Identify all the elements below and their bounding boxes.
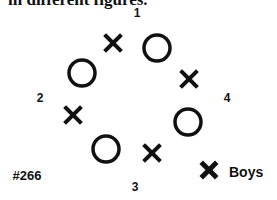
circle-player-icon	[93, 136, 119, 162]
circle-player-icon	[144, 35, 170, 61]
legend-x-icon	[203, 164, 215, 176]
x-player-icon	[182, 72, 196, 86]
position-label-4: 4	[224, 91, 231, 105]
x-player-icon	[106, 36, 120, 50]
position-label-2: 2	[37, 91, 44, 105]
circle-player-icon	[69, 60, 95, 86]
x-player-icon	[66, 108, 80, 122]
x-player-icon	[145, 146, 159, 160]
position-label-1: 1	[134, 6, 141, 20]
position-label-3: 3	[132, 180, 139, 194]
legend-label: Boys	[229, 164, 263, 180]
figure-number: #266	[13, 168, 42, 183]
circle-player-icon	[175, 109, 201, 135]
